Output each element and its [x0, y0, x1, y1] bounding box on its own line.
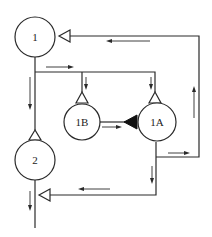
- node-1a-label: 1A: [150, 116, 164, 128]
- flow-arrow-down-icon: [28, 77, 32, 110]
- node-1a: 1A: [138, 103, 176, 141]
- flow-arrow-down-icon: [149, 77, 153, 90]
- node-1-label: 1: [32, 31, 38, 43]
- node2-side-inlet-triangle-icon: [39, 189, 50, 201]
- flow-arrow-left-icon: [78, 187, 110, 191]
- node-2: 2: [15, 140, 55, 180]
- node2-inlet-triangle-icon: [29, 130, 41, 140]
- flow-arrow-right-icon: [102, 125, 122, 129]
- flow-arrow-right-icon: [46, 65, 74, 69]
- node1a-inlet-triangle-icon: [149, 92, 161, 103]
- node1b-inlet-triangle-icon: [76, 92, 88, 103]
- flow-arrow-left-icon: [106, 39, 150, 43]
- flow-arrow-down-icon: [84, 77, 88, 90]
- flow-arrow-up-icon: [192, 86, 196, 118]
- node-1b-label: 1B: [76, 116, 89, 128]
- flow-arrow-down-icon: [28, 191, 32, 211]
- node-1: 1: [15, 17, 55, 57]
- node1-return-inlet-triangle-icon: [59, 30, 70, 42]
- node1a-to-node2-line: [50, 142, 156, 195]
- flow-arrow-right-icon: [168, 151, 190, 155]
- node-1b: 1B: [64, 104, 100, 140]
- flow-arrow-down-icon: [150, 166, 154, 184]
- node-2-label: 2: [32, 154, 38, 166]
- header-line: [35, 72, 155, 92]
- node1a-side-inlet-filled-triangle-icon: [124, 115, 137, 129]
- flow-diagram: 1 1B 1A 2: [0, 0, 212, 237]
